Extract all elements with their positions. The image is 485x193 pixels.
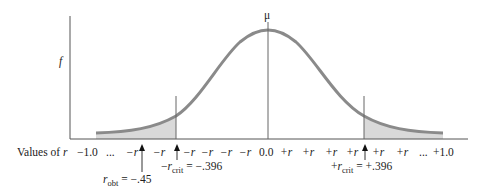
- mean-label: μ: [264, 10, 270, 22]
- tick-label: +r: [302, 147, 314, 159]
- neg-crit-arrow: [174, 144, 180, 160]
- normal-curve: [96, 30, 443, 133]
- tick-label: −1.0: [77, 147, 98, 159]
- tick-label: +r: [372, 147, 384, 159]
- tick-label: −r: [153, 147, 165, 159]
- distribution-diagram: [0, 0, 485, 193]
- tick-label: +r: [346, 147, 358, 159]
- tick-label: +r: [396, 147, 408, 159]
- tick-label: ...: [106, 147, 115, 159]
- neg-r-crit-annotation: −rcrit = −.396: [161, 161, 222, 175]
- tick-label: 0.0: [259, 147, 273, 159]
- r-obt-arrow: [139, 144, 145, 172]
- r-obt-annotation: robt = −.45: [103, 174, 151, 188]
- tick-label: +1.0: [433, 147, 454, 159]
- tick-label: −r: [239, 147, 251, 159]
- tick-label: +r: [325, 147, 337, 159]
- pos-r-crit-annotation: +rcrit = +.396: [331, 161, 392, 175]
- pos-crit-arrow: [362, 144, 368, 160]
- tick-label: −r: [220, 147, 232, 159]
- left-rejection-region: [96, 116, 176, 139]
- tick-label: ...: [419, 147, 428, 159]
- tick-label: −r: [201, 147, 213, 159]
- y-axis-label: f: [59, 56, 62, 68]
- right-rejection-region: [364, 116, 443, 139]
- x-axis-label: Values of r: [17, 147, 67, 159]
- tick-label: +r: [280, 147, 292, 159]
- tick-label: −r: [183, 147, 195, 159]
- tick-label: −r: [126, 147, 138, 159]
